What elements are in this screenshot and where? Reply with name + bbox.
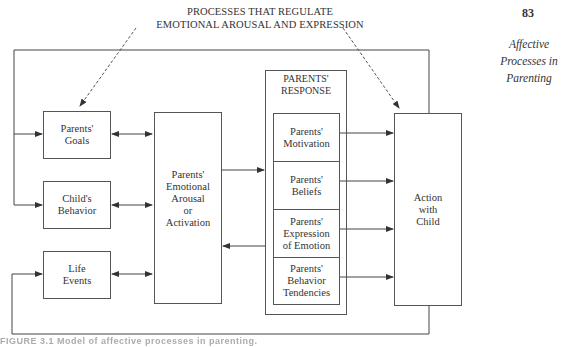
childs-behavior-box: Child's Behavior bbox=[43, 181, 111, 229]
dashed-arrow-to-goals bbox=[80, 28, 136, 106]
life-events-box: Life Events bbox=[43, 251, 111, 299]
page-number: 83 bbox=[522, 6, 534, 21]
parents-response-title: PARENTS' RESPONSE bbox=[265, 73, 347, 97]
dashed-arrow-to-action bbox=[343, 28, 399, 108]
parents-expression-box: Parents' Expression of Emotion bbox=[273, 209, 340, 258]
regulation-processes-label: PROCESSES THAT REGULATE EMOTIONAL AROUSA… bbox=[120, 5, 400, 31]
parents-goals-box: Parents' Goals bbox=[43, 111, 111, 159]
figure-caption: FIGURE 3.1 Model of affective processes … bbox=[0, 336, 258, 346]
action-with-child-box: Action with Child bbox=[394, 113, 462, 306]
running-head: Affective Processes in Parenting bbox=[488, 36, 570, 87]
parents-beliefs-box: Parents' Beliefs bbox=[273, 161, 340, 210]
parents-behavior-tendencies-box: Parents' Behavior Tendencies bbox=[273, 257, 340, 305]
emotional-arousal-box: Parents' Emotional Arousal or Activation bbox=[154, 112, 222, 304]
parents-motivation-box: Parents' Motivation bbox=[273, 113, 340, 162]
